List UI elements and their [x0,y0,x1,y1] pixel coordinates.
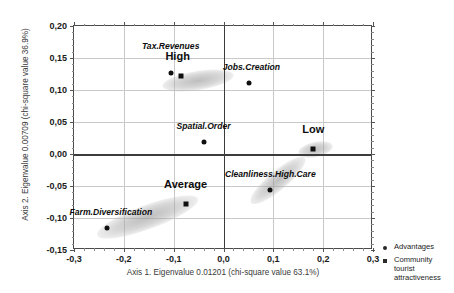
x-axis-tick [74,248,75,252]
top-axis-minor-tick [94,24,95,27]
data-point-jobs-creation[interactable] [247,81,252,86]
y-axis-minor-tick [72,135,75,136]
top-axis-minor-tick [343,24,344,27]
horizontal-gridline [74,218,371,219]
y-axis-minor-tick [72,128,75,129]
y-axis-minor-tick [72,103,75,104]
y-axis-minor-tick [72,180,75,181]
data-point-spatial-order[interactable] [201,140,206,145]
x-axis-minor-tick [104,248,105,251]
y-axis-minor-tick [72,237,75,238]
x-axis-minor-tick [194,248,195,251]
data-point-cleanliness-high-care[interactable] [268,188,273,193]
x-axis-minor-tick [204,248,205,251]
x-axis-minor-tick [184,248,185,251]
data-point-farm-diversification[interactable] [104,225,109,230]
right-axis-minor-tick [371,148,374,149]
x-axis-tick-label: 0,0 [217,254,230,264]
top-axis-tick [124,22,125,26]
top-axis-minor-tick [363,24,364,27]
y-axis-minor-tick [72,231,75,232]
y-axis-minor-tick [72,52,75,53]
point-label-cleanliness-high-care: Cleanliness.High.Care [225,169,316,179]
y-axis-minor-tick [72,205,75,206]
x-axis-tick [174,248,175,252]
point-label-jobs-creation: Jobs.Creation [223,62,280,72]
data-point-low[interactable] [311,147,316,152]
right-axis-tick [371,122,375,123]
y-axis-tick-label: 0,10 [49,85,67,95]
right-axis-minor-tick [371,52,374,53]
top-axis-minor-tick [164,24,165,27]
right-axis-minor-tick [371,244,374,245]
x-axis-minor-tick [303,248,304,251]
right-axis-minor-tick [371,96,374,97]
point-label-spatial-order: Spatial.Order [177,121,231,131]
y-axis-minor-tick [72,244,75,245]
legend-item-label: Advantages [394,242,434,251]
top-axis-minor-tick [293,24,294,27]
x-axis-minor-tick [343,248,344,251]
y-axis-tick-label: -0,05 [46,181,67,191]
data-point-average[interactable] [183,201,188,206]
x-axis-tick-label: -0,3 [66,254,82,264]
right-axis-minor-tick [371,45,374,46]
right-axis-minor-tick [371,109,374,110]
right-axis-tick [371,154,375,155]
y-axis-tick-label: 0,05 [49,117,67,127]
top-axis-tick [273,22,274,26]
legend-item[interactable]: Community tourist attractiveness [382,256,454,283]
point-label-low: Low [302,123,324,135]
x-axis-tick-label: -0,1 [166,254,182,264]
legend-circle-marker-icon [383,246,387,250]
legend-square-marker-icon [383,259,387,263]
x-axis-minor-tick [293,248,294,251]
y-axis-title: Axis 2. Eigenvalue 0.00709 (chi-square v… [21,15,30,235]
y-axis-minor-tick [72,64,75,65]
vertical-gridline [323,26,324,248]
y-axis-minor-tick [72,96,75,97]
y-axis-tick-label: 0,15 [49,53,67,63]
right-axis-tick [371,58,375,59]
right-axis-minor-tick [371,224,374,225]
x-axis-tick [323,248,324,252]
correspondence-analysis-chart: Axis 2. Eigenvalue 0.00709 (chi-square v… [0,0,454,293]
right-axis-minor-tick [371,103,374,104]
x-axis-minor-tick [283,248,284,251]
top-axis-minor-tick [194,24,195,27]
right-axis-minor-tick [371,77,374,78]
top-axis-minor-tick [243,24,244,27]
x-axis-minor-tick [313,248,314,251]
top-axis-minor-tick [283,24,284,27]
right-axis-minor-tick [371,173,374,174]
data-point-high[interactable] [178,73,183,78]
right-axis-minor-tick [371,141,374,142]
horizontal-gridline [74,58,371,59]
right-axis-tick [371,218,375,219]
right-axis-tick [371,26,375,27]
x-axis-minor-tick [233,248,234,251]
cluster-cleanliness-cluster [245,151,311,211]
x-axis-tick [224,248,225,252]
legend-item[interactable]: Advantages [382,243,454,252]
right-axis-minor-tick [371,199,374,200]
x-axis-minor-tick [94,248,95,251]
y-axis-tick-label: -0,10 [46,213,67,223]
x-axis-minor-tick [144,248,145,251]
y-axis-minor-tick [72,224,75,225]
x-axis-minor-tick [363,248,364,251]
horizontal-gridline [74,186,371,187]
y-axis-minor-tick [72,71,75,72]
right-axis-tick [371,90,375,91]
y-axis-minor-tick [72,167,75,168]
top-axis-minor-tick [313,24,314,27]
x-axis-minor-tick [353,248,354,251]
top-axis-minor-tick [253,24,254,27]
y-axis-minor-tick [72,84,75,85]
y-zero-axis-line [224,26,226,248]
x-axis-minor-tick [214,248,215,251]
right-axis-minor-tick [371,32,374,33]
top-axis-minor-tick [104,24,105,27]
right-axis-minor-tick [371,128,374,129]
data-point-tax-revenues[interactable] [168,71,173,76]
